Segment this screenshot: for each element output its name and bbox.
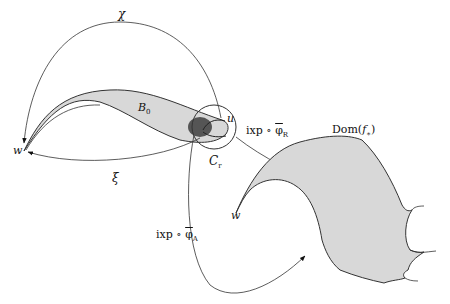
label-ixp-r-sub: R bbox=[283, 131, 288, 139]
diagram-svg bbox=[0, 0, 450, 304]
label-w-left: w bbox=[13, 145, 22, 156]
label-ixp-r-prefix: ixp ∘ bbox=[246, 124, 275, 137]
label-cr-sub: r bbox=[218, 162, 221, 170]
label-xi: ξ bbox=[112, 172, 119, 184]
label-b0-sub: 0 bbox=[146, 108, 150, 116]
label-w-right: w bbox=[231, 210, 240, 221]
label-cr: Cr bbox=[209, 155, 222, 170]
label-ixp-phi-a: ixp ∘ φA bbox=[156, 229, 198, 243]
label-b0-main: B bbox=[138, 101, 146, 114]
label-dom-f: Dom(f∗) bbox=[332, 124, 375, 138]
label-ixp-phi-r: ixp ∘ φR bbox=[246, 125, 288, 139]
region-dom-f bbox=[236, 136, 424, 283]
cusp-tail-3 bbox=[405, 278, 418, 281]
label-b0: B0 bbox=[138, 102, 151, 116]
label-chi: χ bbox=[118, 8, 125, 20]
label-ixp-a-phi: φ bbox=[185, 228, 193, 241]
cusp-tail-1 bbox=[412, 206, 424, 210]
label-ixp-r-phi: φ bbox=[275, 124, 283, 137]
label-dom-prefix: Dom( bbox=[332, 123, 362, 136]
arrow-xi bbox=[28, 138, 200, 160]
label-ixp-a-prefix: ixp ∘ bbox=[156, 228, 185, 241]
label-dom-close: ) bbox=[371, 123, 375, 136]
label-ixp-a-sub: A bbox=[193, 235, 198, 243]
label-u: u bbox=[227, 113, 234, 124]
label-cr-main: C bbox=[209, 154, 218, 168]
diagram-canvas: χ ξ B0 u w w Cr ixp ∘ φR ixp ∘ φA Dom(f∗… bbox=[0, 0, 450, 304]
